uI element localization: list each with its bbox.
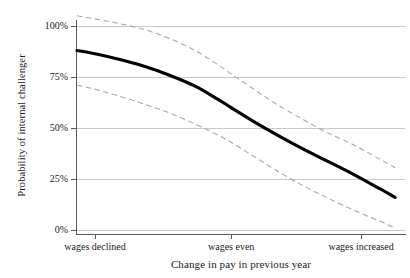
lower-confidence-curve: [77, 85, 395, 228]
chart-figure: Probability of internal challenger Chang…: [0, 0, 410, 278]
y-tick-mark: [71, 77, 76, 78]
x-axis-line: [76, 234, 406, 235]
x-tick-label: wages declined: [35, 241, 155, 253]
x-tick-mark: [361, 234, 362, 239]
y-tick-mark: [71, 26, 76, 27]
x-tick-label: wages increased: [301, 241, 410, 253]
y-tick-label: 75%: [28, 72, 68, 82]
x-axis-title: Change in pay in previous year: [77, 258, 405, 270]
x-tick-mark: [231, 234, 232, 239]
y-tick-mark: [71, 128, 76, 129]
upper-confidence-curve: [77, 16, 395, 168]
x-tick-mark: [95, 234, 96, 239]
y-tick-label: 50%: [28, 123, 68, 133]
y-tick-mark: [71, 230, 76, 231]
y-axis-title: Probability of internal challenger: [16, 31, 27, 221]
y-tick-label: 0%: [28, 225, 68, 235]
y-tick-mark: [71, 179, 76, 180]
x-tick-label: wages even: [171, 241, 291, 253]
main-probability-curve: [77, 50, 395, 197]
y-tick-label: 100%: [28, 21, 68, 31]
y-tick-label: 25%: [28, 174, 68, 184]
curves-svg: [77, 20, 405, 233]
plot-area: [77, 20, 405, 233]
